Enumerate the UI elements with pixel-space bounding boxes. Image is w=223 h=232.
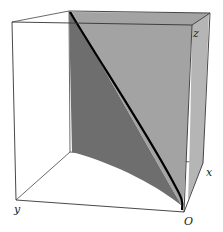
x-axis-label: x <box>206 166 213 179</box>
origin-label: O <box>184 215 193 228</box>
z-axis-label: z <box>192 27 199 40</box>
diagram-canvas: z x y O <box>0 0 223 232</box>
y-axis-label: y <box>13 203 21 216</box>
